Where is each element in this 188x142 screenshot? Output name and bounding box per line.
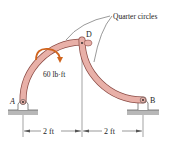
dim-label-right: 2 ft: [104, 127, 116, 136]
quarter-circles-label: Quarter circles: [113, 12, 157, 21]
moment-label: 60 lb·ft: [43, 70, 66, 79]
leader-line-2: [94, 16, 112, 62]
label-d: D: [86, 30, 92, 39]
frame-diagram: 2 ft 2 ft 60 lb·ft A B D Quarter circles: [0, 0, 188, 142]
ground-a: [8, 110, 38, 115]
pin-d: [81, 42, 83, 44]
ground-b: [127, 110, 159, 115]
dim-label-left: 2 ft: [43, 127, 55, 136]
label-b: B: [150, 96, 155, 105]
pin-d-tab: [84, 40, 92, 46]
label-a: A: [9, 97, 15, 106]
